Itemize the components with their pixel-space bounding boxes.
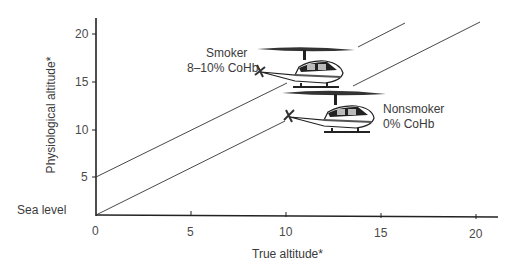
y-tick-20: 20 bbox=[75, 27, 88, 41]
y-tick-10: 10 bbox=[75, 123, 88, 137]
y-tick-15: 15 bbox=[75, 75, 88, 89]
nonsmoker-label: Nonsmoker bbox=[383, 102, 444, 116]
sea-level-label: Sea level bbox=[17, 203, 66, 217]
x-axis-label: True altitude* bbox=[252, 247, 323, 261]
helicopter-icon-smoker bbox=[255, 47, 355, 87]
nonsmoker-cohb-label: 0% CoHb bbox=[383, 117, 434, 131]
y-axis-label: Physiological altitude* bbox=[44, 50, 58, 180]
smoker-line bbox=[96, 23, 405, 177]
x-tick-15: 15 bbox=[374, 226, 387, 240]
x-axis bbox=[96, 215, 498, 217]
y-tick-5: 5 bbox=[81, 170, 88, 184]
x-tick-5: 5 bbox=[187, 225, 194, 239]
chart-canvas bbox=[0, 0, 510, 274]
helicopter-icon-nonsmoker bbox=[282, 91, 386, 132]
x-tick-20: 20 bbox=[469, 227, 482, 241]
smoker-cohb-label: 8–10% CoHb bbox=[187, 61, 258, 75]
smoker-label: Smoker bbox=[206, 46, 247, 60]
x-tick-10: 10 bbox=[279, 225, 292, 239]
x-tick-0: 0 bbox=[92, 224, 99, 238]
